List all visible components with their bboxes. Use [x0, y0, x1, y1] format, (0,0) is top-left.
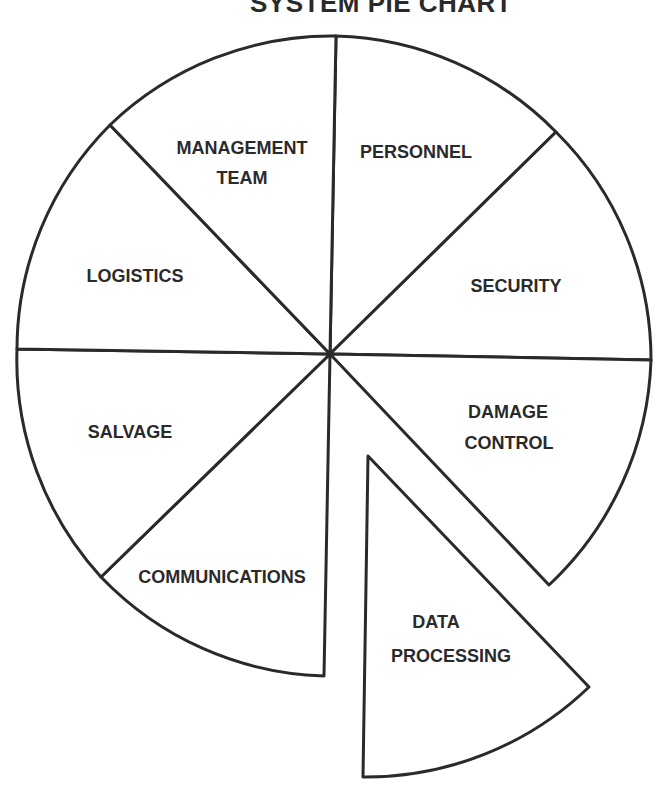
label-security: SECURITY	[470, 276, 561, 296]
label-damage-control-1: DAMAGE	[468, 402, 548, 422]
label-personnel: PERSONNEL	[360, 142, 472, 162]
label-logistics: LOGISTICS	[86, 266, 183, 286]
label-management-team-2: TEAM	[217, 168, 268, 188]
pie-chart: PERSONNEL SECURITY DAMAGE CONTROL DATA P…	[0, 0, 661, 793]
label-data-processing-2: PROCESSING	[391, 646, 511, 666]
label-data-processing-1: DATA	[412, 612, 459, 632]
label-damage-control-2: CONTROL	[465, 433, 554, 453]
label-communications: COMMUNICATIONS	[138, 567, 306, 587]
label-salvage: SALVAGE	[88, 422, 172, 442]
label-management-team-1: MANAGEMENT	[177, 138, 308, 158]
